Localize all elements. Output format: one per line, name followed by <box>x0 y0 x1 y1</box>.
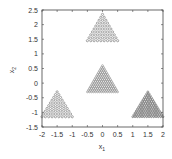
y-tick-label: 2 <box>34 21 38 28</box>
data-points <box>41 13 164 118</box>
triangle-cluster <box>132 91 164 118</box>
x-tick-label: 2 <box>161 131 165 138</box>
triangle-cluster <box>86 13 118 42</box>
y-axis-label: x2 <box>8 67 17 74</box>
x-tick-label: -2 <box>39 131 45 138</box>
triangle-cluster <box>86 65 118 93</box>
y-tick-label: 1 <box>34 50 38 57</box>
x-tick-label: -1.5 <box>51 131 63 138</box>
y-tick-label: 1.5 <box>28 36 38 43</box>
x-tick-label: -1 <box>69 131 75 138</box>
x-axis-label: x1 <box>99 143 106 152</box>
x-tick-label: 0.5 <box>113 131 123 138</box>
x-tick-label: 0 <box>101 131 105 138</box>
y-tick-label: 0.5 <box>28 65 38 72</box>
y-tick-label: -1.5 <box>26 124 38 131</box>
y-tick-label: -1 <box>32 109 38 116</box>
x-tick-label: -0.5 <box>81 131 93 138</box>
y-tick-label: 2.5 <box>28 7 38 14</box>
x-tick-label: 1.5 <box>143 131 153 138</box>
y-tick-label: -0.5 <box>26 94 38 101</box>
scatter-chart: -2-1.5-1-0.500.511.52 -1.5-1-0.500.511.5… <box>0 0 172 159</box>
y-tick-label: 0 <box>34 80 38 87</box>
x-tick-label: 1 <box>131 131 135 138</box>
triangle-cluster <box>41 91 73 118</box>
